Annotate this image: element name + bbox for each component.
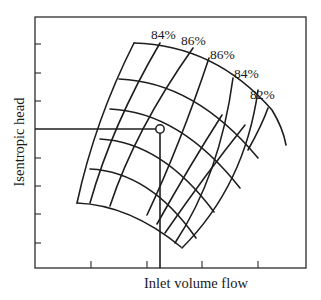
efficiency-label: 86% [210, 47, 235, 62]
speed-line [119, 79, 258, 158]
efficiency-label: 84% [151, 27, 176, 42]
speed-line [90, 169, 196, 238]
efficiency-label: 86% [181, 33, 206, 48]
flow-line [175, 78, 233, 243]
flow-line [182, 90, 258, 248]
efficiency-label: 82% [250, 87, 275, 102]
plot-frame [35, 17, 306, 268]
y-axis-label: Isentropic head [11, 97, 27, 187]
x-axis-ticks [91, 261, 258, 268]
flow-line [147, 58, 209, 215]
efficiency-labels: 84% 86% 86% 84% 82% [151, 27, 275, 102]
x-axis-label: Inlet volume flow [144, 275, 248, 291]
speed-line [100, 139, 214, 212]
flow-line-surge [77, 43, 134, 203]
efficiency-label: 84% [234, 66, 259, 81]
operating-point-marker [156, 125, 164, 133]
grid-ext [157, 115, 245, 233]
compressor-map-diagram: 84% 86% 86% 84% 82% Inlet volume flow Is… [0, 0, 321, 300]
y-axis-ticks [35, 44, 41, 243]
